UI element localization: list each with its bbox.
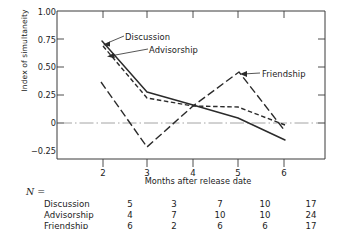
n-cell: 17 bbox=[300, 221, 322, 229]
n-row-name: Discussion bbox=[44, 199, 118, 209]
n-cell: 3 bbox=[163, 199, 185, 209]
x-axis-ticks-top bbox=[103, 11, 284, 18]
n-row-name: Friendship bbox=[44, 221, 118, 229]
y-axis-ticks-right bbox=[318, 39, 325, 123]
n-row-name: Advisorship bbox=[44, 210, 118, 220]
n-cell: 10 bbox=[209, 210, 231, 220]
n-table-label: N = bbox=[26, 186, 45, 197]
x-axis-title: Months after release date bbox=[118, 176, 278, 186]
n-cell: 6 bbox=[209, 221, 231, 229]
n-cell: 7 bbox=[209, 199, 231, 209]
x-tick-label: 2 bbox=[93, 168, 113, 178]
series-line-discussion bbox=[102, 41, 285, 140]
n-cell: 24 bbox=[300, 210, 322, 220]
n-table-row: Discussion 5 3 7 10 17 bbox=[0, 199, 346, 210]
annotation-leaders bbox=[103, 36, 260, 77]
series-annotation-advisorship: Advisorship bbox=[149, 45, 198, 55]
n-table-row: Advisorship 4 7 10 10 24 bbox=[0, 210, 346, 221]
n-cell: 10 bbox=[254, 210, 276, 220]
series-annotation-discussion: Discussion bbox=[125, 32, 170, 42]
n-table-row: Friendship 6 2 6 6 17 bbox=[0, 221, 346, 229]
n-cell: 6 bbox=[119, 221, 141, 229]
n-cell: 17 bbox=[300, 199, 322, 209]
n-cell: 4 bbox=[119, 210, 141, 220]
series-line-friendship bbox=[101, 72, 285, 147]
series-annotation-friendship: Friendship bbox=[262, 69, 306, 79]
n-cell: 10 bbox=[254, 199, 276, 209]
y-axis-ticks bbox=[57, 39, 64, 123]
series-line-advisorship bbox=[103, 46, 285, 125]
n-cell: 6 bbox=[254, 221, 276, 229]
n-cell: 5 bbox=[119, 199, 141, 209]
axes-frame bbox=[57, 11, 325, 159]
n-cell: 7 bbox=[163, 210, 185, 220]
x-axis-ticks bbox=[103, 159, 284, 167]
n-table: N = Discussion 5 3 7 10 17 Advisorship 4… bbox=[0, 186, 346, 229]
chart-figure: Index of simultaneity 1.00 0.75 0.50 0.2… bbox=[0, 0, 346, 229]
n-cell: 2 bbox=[163, 221, 185, 229]
